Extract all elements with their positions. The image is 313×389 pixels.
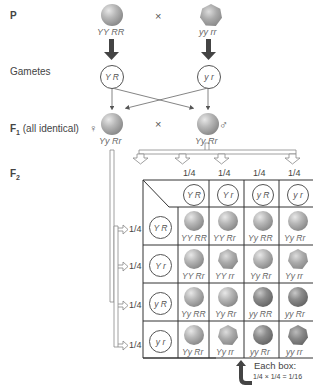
col-freq: 1/4 <box>253 168 266 178</box>
round-pea-icon <box>184 287 204 307</box>
round-pea-icon <box>184 249 204 269</box>
round-pea-icon <box>184 325 204 345</box>
cell-genotype: Yy rr <box>285 271 303 281</box>
row-gamete: y r <box>149 330 172 353</box>
row-freq: 1/4 <box>129 261 142 271</box>
male-symbol-icon: ♂ <box>219 118 228 132</box>
round-green-pea-icon <box>253 325 273 345</box>
cell-genotype: yy RR <box>249 309 272 319</box>
cell-genotype: YY Rr <box>182 271 205 281</box>
female-symbol-icon: ♀ <box>89 122 97 134</box>
gamete-left: Y R <box>100 65 124 89</box>
round-green-pea-icon <box>253 287 273 307</box>
cell-genotype: Yy rr <box>216 347 234 357</box>
col-gamete: y R <box>252 184 274 206</box>
f1-male-genotype: Yy Rr <box>195 136 218 146</box>
row-gamete: Y R <box>149 216 172 239</box>
f1-cross-symbol: × <box>155 118 161 130</box>
gamete-right: y r <box>197 65 221 89</box>
row-freq: 1/4 <box>129 340 142 350</box>
col-freq: 1/4 <box>183 168 196 178</box>
f1-female-genotype: Yy Rr <box>99 136 122 146</box>
row-gamete: Y r <box>149 254 172 277</box>
col-gamete: Y R <box>183 184 205 206</box>
round-green-pea-icon <box>288 287 308 307</box>
round-pea-icon <box>253 249 273 269</box>
col-gamete: Y r <box>217 184 239 206</box>
row-freq: 1/4 <box>129 224 142 234</box>
note-probability: 1/4 × 1/4 = 1/16 <box>253 373 302 380</box>
round-pea-icon <box>253 211 273 231</box>
cell-genotype: Yy Rr <box>284 233 305 243</box>
cell-genotype: Yy RR <box>248 233 273 243</box>
cell-genotype: Yy Rr <box>215 309 236 319</box>
cell-genotype: Yy Rr <box>250 271 271 281</box>
col-freq: 1/4 <box>288 168 301 178</box>
f1-male-pea-icon <box>197 113 219 135</box>
cell-genotype: Yy RR <box>181 309 206 319</box>
note-each-box: Each box: <box>254 360 296 371</box>
cell-genotype: YY Rr <box>213 233 236 243</box>
cell-genotype: YY RR <box>181 233 207 243</box>
cell-genotype: yy Rr <box>285 309 305 319</box>
f1-female-pea-icon <box>101 113 123 135</box>
round-pea-icon <box>218 287 238 307</box>
col-gamete: y r <box>287 184 309 206</box>
cell-genotype: yy rr <box>286 347 303 357</box>
cell-genotype: Yy Rr <box>182 347 203 357</box>
round-pea-icon <box>218 211 238 231</box>
row-gamete: y R <box>149 292 172 315</box>
row-freq: 1/4 <box>129 300 142 310</box>
cell-genotype: YY rr <box>215 271 234 281</box>
round-pea-icon <box>184 211 204 231</box>
col-freq: 1/4 <box>218 168 231 178</box>
cell-genotype: yy Rr <box>250 347 270 357</box>
round-pea-icon <box>288 211 308 231</box>
